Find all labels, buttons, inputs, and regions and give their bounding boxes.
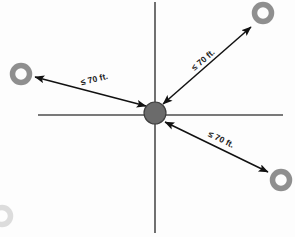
node-left-icon	[13, 66, 30, 83]
measure-lower-right-arrow	[165, 122, 268, 172]
node-bottom-right-icon	[273, 172, 290, 189]
measure-lower-right-label: ≤ 70 ft.	[207, 129, 236, 150]
measures-group	[35, 27, 268, 172]
node-bottom-left-partial-icon	[0, 208, 11, 225]
center-hub-icon	[144, 102, 166, 124]
measure-upper-right-arrow	[163, 27, 251, 104]
node-top-right-icon	[255, 5, 272, 22]
measure-left-label: ≤ 70 ft.	[80, 71, 109, 87]
diagram-canvas: ≤ 70 ft. ≤ 70 ft. ≤ 70 ft.	[0, 0, 295, 237]
hub-group	[144, 102, 166, 124]
distance-diagram: ≤ 70 ft. ≤ 70 ft. ≤ 70 ft.	[0, 0, 295, 237]
labels-group: ≤ 70 ft. ≤ 70 ft. ≤ 70 ft.	[80, 47, 236, 150]
